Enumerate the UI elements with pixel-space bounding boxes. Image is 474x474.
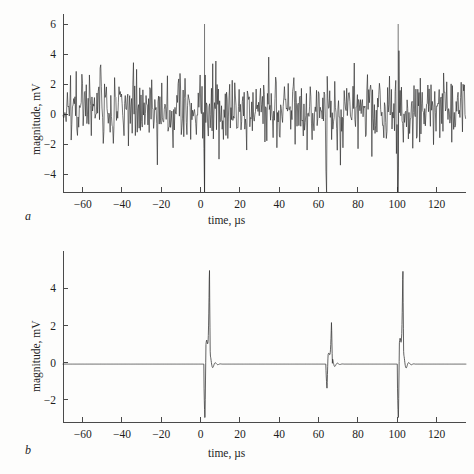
panel-a-noise-trace bbox=[63, 51, 466, 192]
panel-b-y-axis-label: magnitude, mV bbox=[30, 320, 42, 392]
panel-b-x-tick-label: 40 bbox=[273, 428, 285, 440]
panel-b-x-tick-label: 80 bbox=[352, 428, 364, 440]
panel-a-letter: a bbox=[25, 209, 31, 224]
panel-b-y-tick-label: 0 bbox=[50, 357, 56, 369]
panel-a-x-tick-label: 40 bbox=[273, 198, 285, 210]
panel-a-x-tick-label: 120 bbox=[428, 198, 446, 210]
panel-a-y-tick-label: 4 bbox=[50, 48, 56, 60]
panel-a-y-axis-label: magnitude, mV bbox=[30, 83, 42, 155]
figure-container: 6420−2−4−60−40−20020406080100120 magnitu… bbox=[0, 0, 474, 474]
panel-b-axes bbox=[63, 251, 466, 422]
panel-a-y-tick-label: 0 bbox=[50, 108, 56, 120]
panel-b-x-tick-label: −60 bbox=[74, 428, 92, 440]
panel-a-y-tick-label: 6 bbox=[50, 18, 56, 30]
panel-a-x-tick-label: 100 bbox=[389, 198, 407, 210]
panel-a-x-axis-label: time, µs bbox=[208, 214, 245, 226]
panel-b-letter: b bbox=[25, 443, 31, 458]
panel-b-x-tick-label: −20 bbox=[152, 428, 170, 440]
panel-a-x-tick-label: 0 bbox=[198, 198, 204, 210]
panel-b-x-tick-label: −40 bbox=[113, 428, 131, 440]
panel-b-y-tick-label: 2 bbox=[50, 320, 56, 332]
panel-b-compressed-trace bbox=[63, 271, 466, 418]
panel-a-y-tick-label: 2 bbox=[50, 78, 56, 90]
panel-a-x-tick-label: −20 bbox=[152, 198, 170, 210]
panel-b-y-tick-label: 4 bbox=[50, 282, 56, 294]
panel-b-x-tick-label: 60 bbox=[313, 428, 325, 440]
panel-b-x-tick-label: 120 bbox=[428, 428, 446, 440]
panel-a-x-tick-label: 20 bbox=[234, 198, 246, 210]
panel-b: 420−2−60−40−20020406080100120 bbox=[0, 237, 474, 474]
panel-b-x-axis-label: time, µs bbox=[208, 447, 245, 459]
panel-a-y-tick-label: −2 bbox=[44, 138, 56, 150]
plot-b-canvas: 420−2−60−40−20020406080100120 bbox=[0, 237, 474, 474]
panel-a-x-tick-label: −60 bbox=[74, 198, 92, 210]
panel-b-x-tick-label: 100 bbox=[389, 428, 407, 440]
panel-b-x-tick-label: 20 bbox=[234, 428, 246, 440]
panel-a-x-tick-label: −40 bbox=[113, 198, 131, 210]
panel-a-x-tick-label: 80 bbox=[352, 198, 364, 210]
panel-a: 6420−2−4−60−40−20020406080100120 magnitu… bbox=[0, 0, 474, 237]
panel-a-x-tick-label: 60 bbox=[313, 198, 325, 210]
panel-b-x-tick-label: 0 bbox=[198, 428, 204, 440]
plot-a-canvas: 6420−2−4−60−40−20020406080100120 bbox=[0, 0, 474, 237]
panel-b-y-tick-label: −2 bbox=[44, 394, 56, 406]
panel-a-y-tick-label: −4 bbox=[44, 168, 56, 180]
